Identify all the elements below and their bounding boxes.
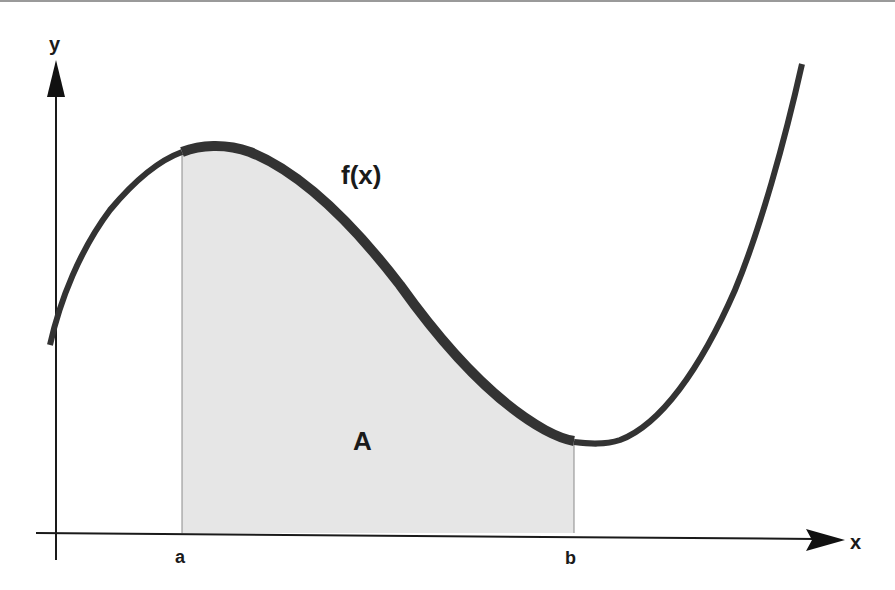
function-label: f(x) xyxy=(341,160,381,190)
curve-right xyxy=(574,64,802,444)
y-axis-arrow-icon xyxy=(47,60,65,97)
x-axis-label: x xyxy=(850,531,861,553)
y-axis-label: y xyxy=(49,33,61,55)
lower-bound-label: a xyxy=(175,547,186,567)
upper-bound-label: b xyxy=(565,548,576,568)
curve-left xyxy=(50,152,182,345)
area-label: A xyxy=(353,426,372,456)
x-axis-arrow-icon xyxy=(806,529,845,551)
x-axis xyxy=(36,533,815,539)
area-region xyxy=(182,146,574,533)
integral-diagram: y x f(x) A a b xyxy=(0,0,895,590)
